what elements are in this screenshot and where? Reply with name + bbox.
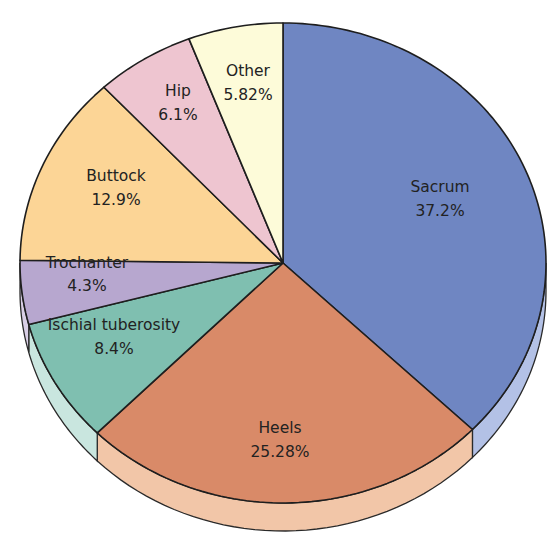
label-sacrum-pct: 37.2%: [415, 202, 464, 220]
label-sacrum-name: Sacrum: [410, 178, 469, 196]
label-buttock-name: Buttock: [86, 167, 146, 185]
label-trochanter-name: Trochanter: [45, 254, 129, 272]
label-heels-name: Heels: [258, 419, 301, 437]
label-buttock-pct: 12.9%: [91, 191, 140, 209]
pie-chart: Sacrum 37.2% Heels 25.28% Ischial tubero…: [0, 0, 560, 555]
label-ischial-pct: 8.4%: [94, 340, 133, 358]
label-other-name: Other: [226, 62, 271, 80]
label-heels-pct: 25.28%: [250, 443, 309, 461]
label-trochanter-pct: 4.3%: [67, 277, 106, 295]
label-other-pct: 5.82%: [223, 86, 272, 104]
label-hip-pct: 6.1%: [158, 106, 197, 124]
label-ischial-name: Ischial tuberosity: [48, 316, 180, 334]
label-hip-name: Hip: [165, 82, 191, 100]
